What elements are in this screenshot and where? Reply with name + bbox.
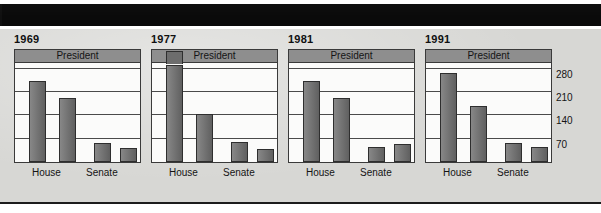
bar-house-democrat xyxy=(166,65,183,162)
bar-senate-republican xyxy=(531,147,548,162)
chart-panel-1991: 1991PresidentHouseSenate xyxy=(425,33,556,193)
y-tick-140: 140 xyxy=(556,115,573,126)
bar-house-democrat-overflow xyxy=(166,51,183,64)
president-band-label: President xyxy=(289,50,414,62)
bar-senate-republican xyxy=(120,148,137,162)
bar-senate-republican xyxy=(257,149,274,162)
panel-row: 1969PresidentHouseSenate1977PresidentHou… xyxy=(0,29,601,202)
bar-house-democrat xyxy=(29,81,46,162)
bars-layer xyxy=(426,63,551,162)
president-band: President xyxy=(288,49,415,63)
bar-senate-democrat xyxy=(94,143,111,162)
plot-area xyxy=(288,63,415,163)
x-label-senate: Senate xyxy=(497,167,529,178)
president-band: President xyxy=(14,49,141,63)
chart-panel-1981: 1981PresidentHouseSenate xyxy=(288,33,419,193)
panel-year-label: 1991 xyxy=(425,33,450,45)
president-band-label: President xyxy=(426,50,551,62)
x-axis-labels: HouseSenate xyxy=(288,167,415,183)
bar-house-democrat xyxy=(303,81,320,162)
bar-house-republican xyxy=(470,106,487,162)
y-tick-70: 70 xyxy=(556,139,567,150)
panel-year-label: 1981 xyxy=(288,33,313,45)
bar-senate-republican xyxy=(394,144,411,162)
president-band-label: President xyxy=(15,50,140,62)
x-axis-labels: HouseSenate xyxy=(425,167,552,183)
y-axis: 70140210280 xyxy=(556,63,600,167)
y-tick-280: 280 xyxy=(556,69,573,80)
plot-area xyxy=(14,63,141,163)
chart-figure: 1969PresidentHouseSenate1977PresidentHou… xyxy=(0,29,601,204)
chart-panel-1969: 1969PresidentHouseSenate xyxy=(14,33,145,193)
black-banner xyxy=(0,4,601,26)
bar-house-democrat xyxy=(440,73,457,162)
panel-year-label: 1969 xyxy=(14,33,39,45)
x-label-senate: Senate xyxy=(360,167,392,178)
x-label-senate: Senate xyxy=(86,167,118,178)
x-label-house: House xyxy=(306,167,335,178)
bar-senate-democrat xyxy=(231,142,248,162)
bar-house-republican xyxy=(196,114,213,162)
x-axis-labels: HouseSenate xyxy=(151,167,278,183)
panel-year-label: 1977 xyxy=(151,33,176,45)
president-band: President xyxy=(425,49,552,63)
bars-layer xyxy=(152,63,277,162)
x-label-house: House xyxy=(32,167,61,178)
figure-page: 1969PresidentHouseSenate1977PresidentHou… xyxy=(0,0,601,213)
bars-layer xyxy=(15,63,140,162)
plot-area xyxy=(151,63,278,163)
bar-house-republican xyxy=(333,98,350,162)
plot-area xyxy=(425,63,552,163)
bar-senate-democrat xyxy=(505,143,522,162)
page-margin-bottom xyxy=(0,204,601,213)
banner-texture xyxy=(0,4,601,26)
x-label-house: House xyxy=(443,167,472,178)
y-tick-210: 210 xyxy=(556,92,573,103)
x-label-senate: Senate xyxy=(223,167,255,178)
bar-house-republican xyxy=(59,98,76,162)
bar-senate-democrat xyxy=(368,147,385,162)
x-label-house: House xyxy=(169,167,198,178)
bars-layer xyxy=(289,63,414,162)
x-axis-labels: HouseSenate xyxy=(14,167,141,183)
chart-panel-1977: 1977PresidentHouseSenate xyxy=(151,33,282,193)
